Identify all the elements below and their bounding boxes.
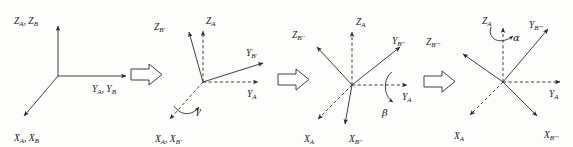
alpha-angle-label: α [513,32,520,43]
panel-1: ZA, ZB YA, YB XA, XB [13,16,126,145]
panel-3: β ZA ZB'' YA YB'' XA XB'' [292,17,412,146]
z-axis-b-dprime [317,47,352,85]
y-axis-b-tprime [503,29,548,82]
z-axis-b-dprime-label: ZB'' [292,30,305,42]
gamma-angle-label: γ [195,105,201,116]
euler-rotation-sequence-diagram: ZA, ZB YA, YB XA, XB γ ZA ZB' YA YB' XA,… [0,0,573,147]
connector-3 [424,71,455,92]
x-axis-b-dprime-label: XB'' [348,134,363,146]
z-axis-a-label: ZA [482,16,492,28]
x-axis-label: XA, XB [13,133,40,145]
x-axis-a-label: XA [453,131,465,143]
beta-rotation-arc [385,72,393,102]
beta-angle-label: β [381,107,388,118]
y-axis-b-prime-label: YB' [246,48,258,60]
x-axis-a-label: XA [303,134,315,146]
y-axis-a-label: YA [402,92,412,104]
z-axis-b-tprime-label: ZB''' [426,37,441,49]
y-axis-b-dprime [352,47,400,85]
x-axis-b-tprime [503,82,537,116]
y-axis-a-label: YA [549,89,559,101]
y-axis-b-dprime-label: YB'' [392,36,405,48]
x-axis [24,76,58,116]
connector-2 [278,69,309,90]
x-axis-a-b-prime-label: XA, XB' [154,134,182,146]
block-arrow-icon [424,71,455,92]
block-arrow-icon [278,69,309,90]
alpha-rotation-arc [490,27,513,41]
z-axis-a-label: ZA [206,16,216,28]
y-axis-label: YA, YB [92,84,117,96]
connector-1 [131,64,162,85]
y-axis-b-tprime-label: YB''' [529,20,544,32]
block-arrow-icon [131,64,162,85]
z-axis-a-label: ZA [356,17,366,29]
x-axis-a [470,82,503,115]
x-axis-b-tprime-label: XB''' [543,130,559,142]
z-axis-b-prime [189,32,203,82]
z-axis-label: ZA, ZB [14,16,39,28]
y-axis-a-label: YA [247,89,257,101]
z-axis-b-tprime [463,54,503,82]
panel-2: γ ZA ZB' YA YB' XA, XB' [154,16,263,146]
y-axis-b-prime [203,63,263,82]
z-axis-b-prime-label: ZB' [154,22,166,34]
